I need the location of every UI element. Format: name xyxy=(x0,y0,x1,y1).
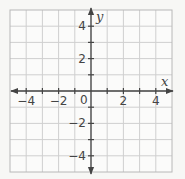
coordinate-plane: −4−22442−2−4 x y 0 xyxy=(0,0,185,179)
y-tick-label: −2 xyxy=(68,116,86,130)
y-tick-label: 2 xyxy=(78,52,86,66)
x-tick-label: −2 xyxy=(50,94,68,108)
y-tick-label: −4 xyxy=(68,149,86,163)
x-tick-label: 4 xyxy=(152,94,160,108)
x-axis-label: x xyxy=(161,74,169,89)
origin-label: 0 xyxy=(80,93,88,107)
x-tick-label: −4 xyxy=(17,94,35,108)
y-axis-label: y xyxy=(95,9,104,24)
y-tick-label: 4 xyxy=(78,19,86,33)
x-tick-label: 2 xyxy=(120,94,128,108)
